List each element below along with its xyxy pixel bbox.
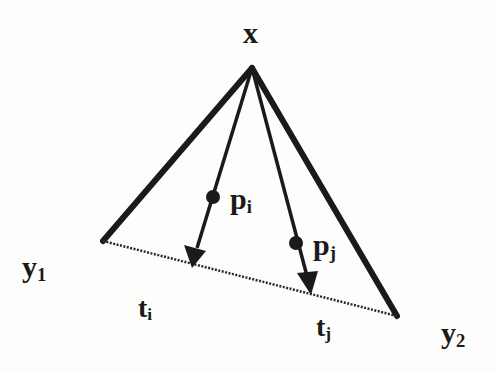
label-pj: pj <box>313 230 336 262</box>
label-ti: ti <box>138 294 152 324</box>
label-tj: tj <box>316 313 331 343</box>
label-y2: y2 <box>441 318 465 350</box>
ray-x-ti <box>197 68 252 248</box>
point-pj <box>289 236 303 250</box>
label-pi: pi <box>230 184 252 216</box>
label-y1: y1 <box>22 252 46 284</box>
point-pi <box>206 190 220 204</box>
edge-x-y2 <box>252 68 397 316</box>
label-x: x <box>243 18 258 48</box>
